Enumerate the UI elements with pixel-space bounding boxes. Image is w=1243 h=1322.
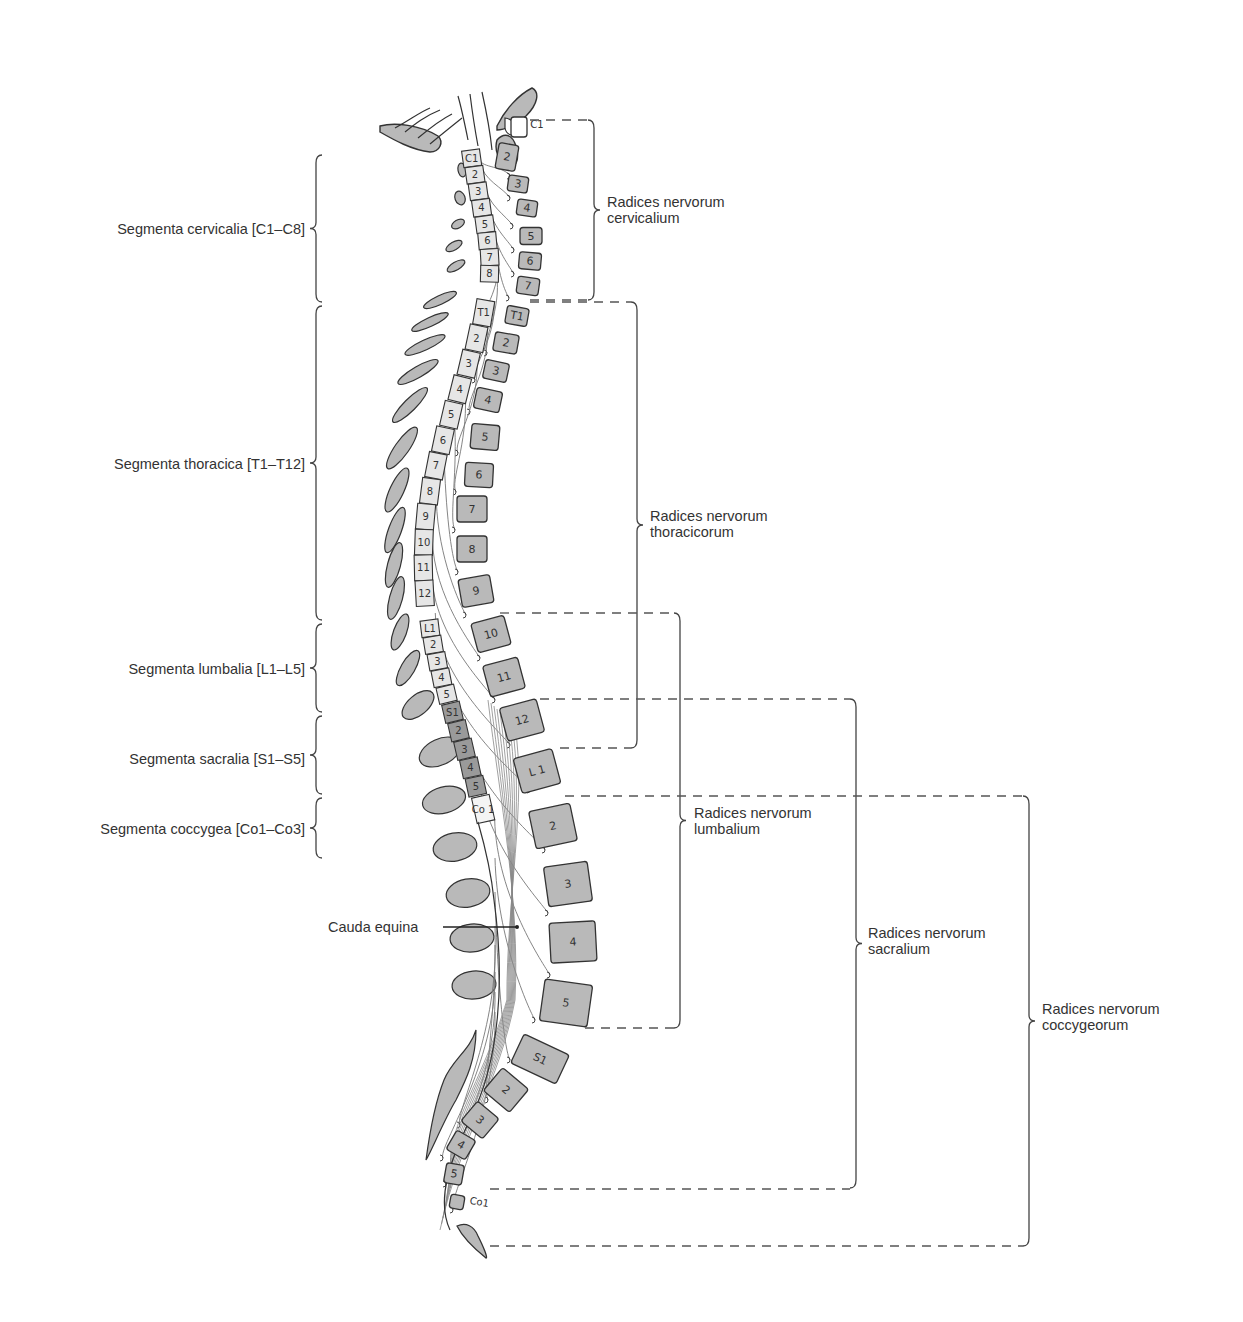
- coccyx-tip: [457, 1224, 487, 1258]
- vertebra-cervical-4: 4: [516, 199, 538, 218]
- cord-segment-cervical-1: C1: [462, 149, 482, 168]
- svg-text:5: 5: [528, 230, 535, 243]
- vertebra-lumbar-4: 4: [549, 921, 597, 963]
- spinal-cord-diagram: C12345678T123456789101112L12345S12345Co …: [0, 0, 1243, 1322]
- cord-segment-thoracic-1: T1: [473, 299, 495, 327]
- svg-text:Co1: Co1: [469, 1195, 490, 1209]
- vertebra-cervical-6: 6: [518, 252, 541, 271]
- spinous-process-3: [450, 217, 466, 231]
- cord-segment-thoracic-12: 12: [415, 580, 434, 606]
- label-segmenta-cervicalia: Segmenta cervicalia [C1–C8]: [117, 221, 305, 237]
- label-radices-lumbalium: Radices nervorum lumbalium: [694, 805, 812, 837]
- bracket-radices-thoracicorum: [631, 302, 643, 748]
- spinous-process-2: [453, 190, 467, 207]
- vertebra-thoracic-12: 12: [499, 699, 545, 742]
- svg-text:C1: C1: [465, 153, 478, 164]
- label-line-1: Radices nervorum: [650, 508, 768, 524]
- vertebra-lumbar-2: 2: [529, 803, 578, 849]
- vertebra-thoracic-10: 10: [471, 615, 512, 653]
- svg-text:6: 6: [484, 235, 490, 246]
- label-line-1: Radices nervorum: [694, 805, 812, 821]
- right-brackets: [588, 120, 1035, 1246]
- svg-text:6: 6: [475, 468, 483, 481]
- spinous-process-9: [395, 356, 440, 389]
- cord-segment-coccygeal-1: Co 1: [472, 794, 495, 823]
- vertebra-sacral-1: S1: [511, 1034, 570, 1084]
- cord-segment-thoracic-9: 9: [415, 503, 435, 530]
- vertebra-thoracic-8: 8: [457, 536, 487, 562]
- svg-text:4: 4: [467, 762, 473, 773]
- spinous-process-11: [382, 424, 422, 473]
- spinous-process-20: [419, 782, 468, 819]
- cord-segment-lumbar-4: 4: [431, 668, 452, 688]
- label-segmenta-sacralia: Segmenta sacralia [S1–S5]: [129, 751, 305, 767]
- label-radices-cervicalium: Radices nervorum cervicalium: [607, 194, 725, 226]
- svg-text:9: 9: [422, 511, 428, 522]
- brace-lumbar: [310, 624, 322, 712]
- bracket-radices-lumbalium: [674, 613, 686, 1028]
- spinous-process-22: [444, 875, 492, 910]
- svg-text:5: 5: [473, 781, 479, 792]
- label-segmenta-lumbalia: Segmenta lumbalia [L1–L5]: [128, 661, 305, 677]
- svg-text:6: 6: [526, 254, 534, 268]
- svg-text:Co 1: Co 1: [472, 804, 495, 815]
- svg-text:5: 5: [481, 430, 489, 444]
- label-line-1: Radices nervorum: [868, 925, 986, 941]
- svg-text:7: 7: [469, 503, 476, 516]
- label-line-1: Radices nervorum: [1042, 1001, 1160, 1017]
- spinous-process-4: [444, 238, 464, 254]
- label-radices-sacralium: Radices nervorum sacralium: [868, 925, 986, 957]
- cord-segment-thoracic-6: 6: [431, 426, 454, 455]
- svg-text:11: 11: [417, 562, 430, 573]
- vertebral-bodies: C1234567T123456789101112L 12345S12345Co1: [443, 117, 597, 1258]
- svg-text:3: 3: [434, 656, 440, 667]
- cord-segment-sacral-2: 2: [448, 720, 470, 742]
- label-line-2: lumbalium: [694, 821, 812, 837]
- cord-segment-sacral-5: 5: [465, 775, 486, 797]
- cord-segment-sacral-3: 3: [454, 738, 476, 760]
- cord-segment-cervical-6: 6: [478, 232, 497, 250]
- vertebra-thoracic-5: 5: [470, 423, 500, 450]
- cord-segment-cervical-3: 3: [468, 182, 488, 201]
- cord-segment-cervical-7: 7: [480, 249, 499, 266]
- foramen-hook: [452, 527, 455, 533]
- cord-segment-cervical-8: 8: [480, 265, 498, 282]
- vertebra-sacral-5: 5: [443, 1163, 464, 1186]
- svg-text:7: 7: [486, 252, 492, 263]
- vertebra-thoracic-4: 4: [473, 387, 503, 413]
- bracket-radices-cervicalium: [588, 120, 600, 300]
- cord-segment-thoracic-7: 7: [425, 452, 448, 480]
- svg-text:3: 3: [466, 358, 472, 369]
- cord-segment-thoracic-10: 10: [414, 529, 433, 555]
- spinous-process-18: [397, 685, 439, 725]
- spinous-process-6: [422, 288, 458, 311]
- vertebra-lumbar-1: L 1: [513, 748, 561, 793]
- cord-segment-thoracic-11: 11: [414, 555, 433, 581]
- vertebra-thoracic-9: 9: [458, 574, 494, 607]
- svg-text:3: 3: [461, 744, 467, 755]
- cord-segment-thoracic-4: 4: [448, 375, 472, 404]
- svg-text:T1: T1: [476, 307, 489, 318]
- svg-text:4: 4: [457, 384, 463, 395]
- spinous-process-12: [381, 465, 414, 514]
- bracket-radices-sacralium: [850, 699, 862, 1188]
- vertebra-cervical-3: 3: [507, 175, 529, 194]
- label-segmenta-coccygea: Segmenta coccygea [Co1–Co3]: [100, 821, 305, 837]
- svg-text:4: 4: [569, 935, 577, 948]
- brace-coccygeal: [310, 798, 322, 858]
- label-line-1: Radices nervorum: [607, 194, 725, 210]
- brace-thoracic: [310, 306, 322, 620]
- svg-text:2: 2: [473, 333, 479, 344]
- vertebra-cervical-7: 7: [516, 276, 540, 296]
- svg-text:4: 4: [438, 672, 444, 683]
- spinous-process-7: [410, 309, 450, 334]
- label-radices-coccygeorum: Radices nervorum coccygeorum: [1042, 1001, 1160, 1033]
- svg-text:T1: T1: [508, 308, 525, 323]
- cord-segment-cervical-2: 2: [465, 165, 485, 184]
- svg-text:7: 7: [433, 460, 439, 471]
- spinous-process-24: [451, 969, 497, 1001]
- svg-text:6: 6: [440, 435, 446, 446]
- vertebra-thoracic-2: 2: [493, 332, 520, 355]
- vertebra-thoracic-6: 6: [464, 462, 493, 487]
- svg-text:8: 8: [427, 486, 433, 497]
